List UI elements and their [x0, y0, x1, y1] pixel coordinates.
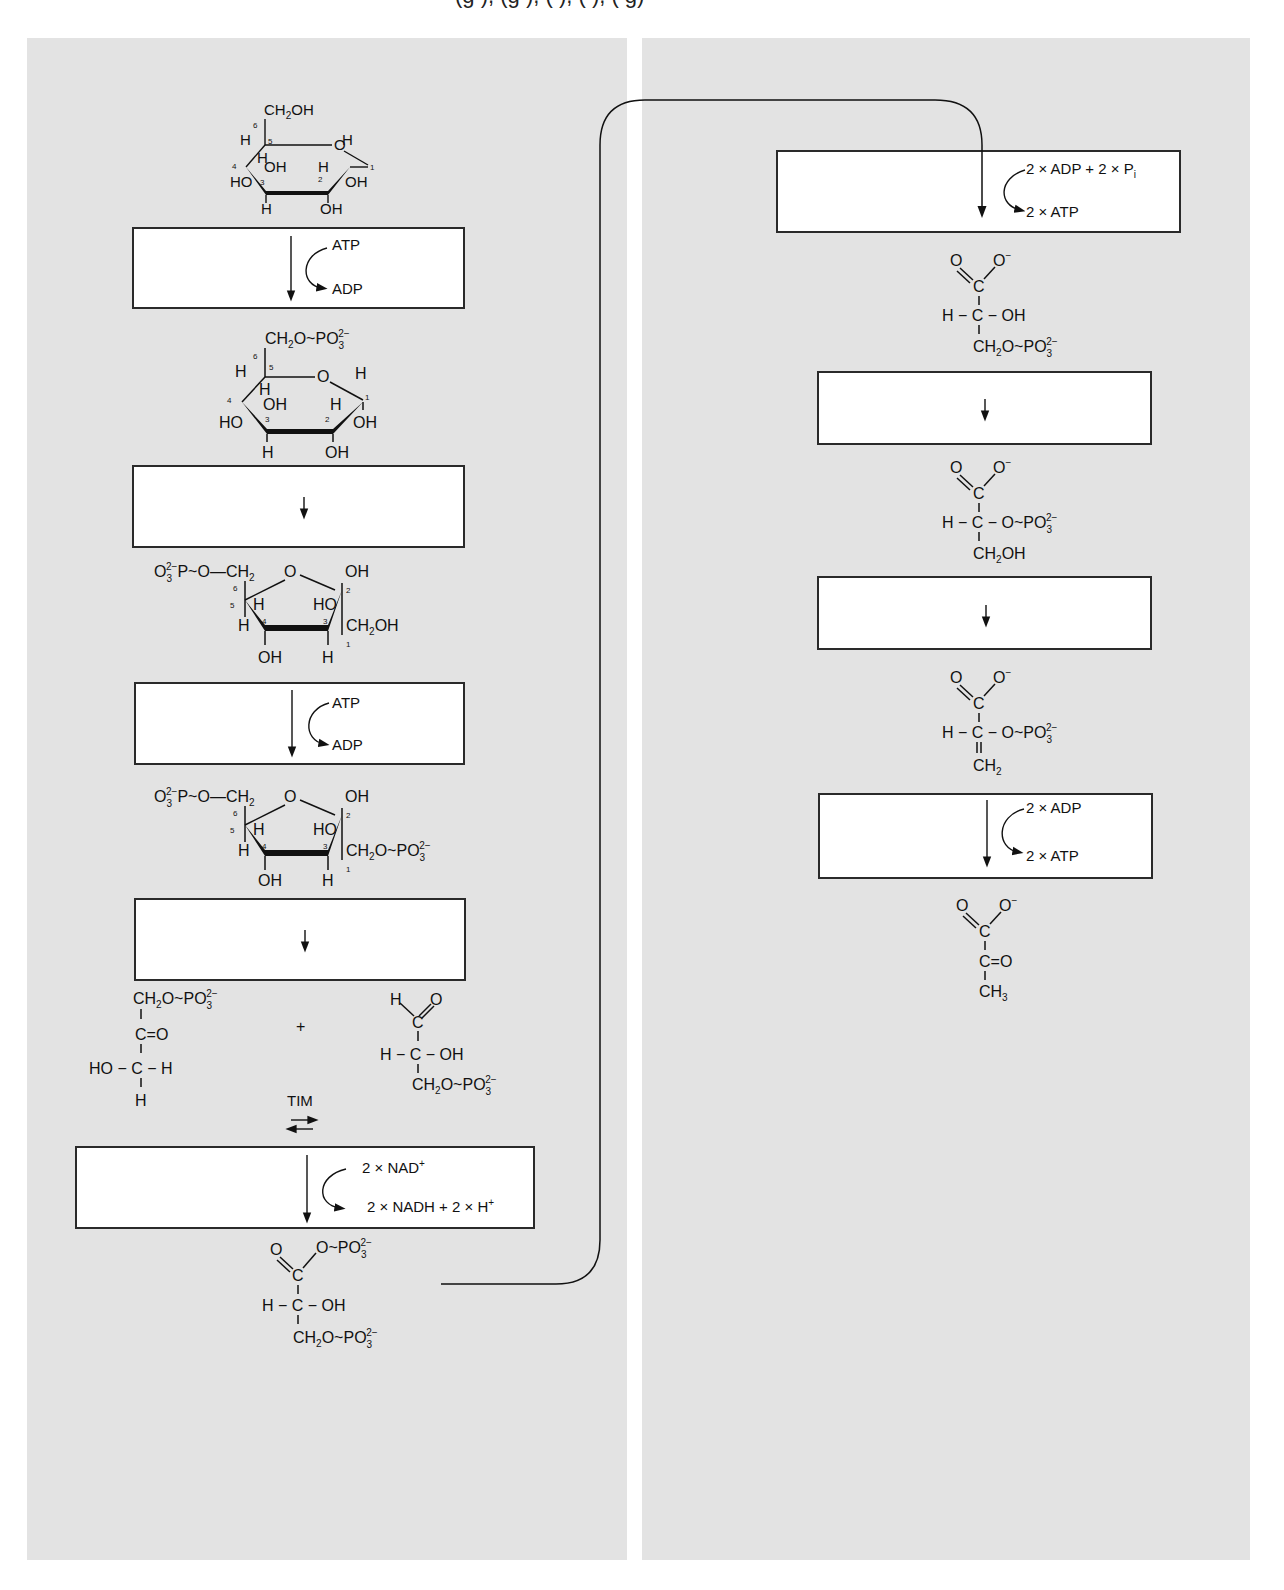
- svg-text:1: 1: [346, 640, 351, 649]
- cofactor-in-adp: 2 × ADP: [1026, 799, 1081, 816]
- svg-text:O32−P~O—CH2: O32−P~O—CH2: [154, 561, 255, 584]
- enzyme-box-step-10: 2 × ADP 2 × ATP: [818, 793, 1153, 879]
- svg-text:2: 2: [346, 586, 351, 595]
- svg-text:H: H: [240, 131, 251, 148]
- svg-text:O32−P~O—CH2: O32−P~O—CH2: [154, 786, 255, 809]
- svg-text:H: H: [262, 444, 274, 461]
- svg-text:1: 1: [370, 163, 375, 172]
- svg-text:CH3: CH3: [979, 983, 1008, 1003]
- svg-text:OH: OH: [263, 396, 287, 413]
- svg-text:3: 3: [323, 842, 328, 851]
- enzyme-box-step-8: [817, 371, 1152, 445]
- svg-text:CH2OH: CH2OH: [973, 545, 1026, 565]
- svg-text:4: 4: [232, 162, 237, 171]
- svg-text:H: H: [318, 158, 329, 175]
- svg-text:OH: OH: [353, 414, 377, 431]
- svg-text:OH: OH: [258, 649, 282, 666]
- svg-text:O−: O−: [999, 895, 1017, 914]
- molecule-glucose: alpha-D-glucose (pyranose) CH2OH 6 5 O H…: [220, 95, 380, 220]
- svg-text:O: O: [950, 669, 962, 686]
- svg-text:C: C: [412, 1014, 424, 1031]
- svg-text:CH2O~PO32−: CH2O~PO32−: [346, 840, 431, 863]
- molecule-phosphoenolpyruvate: phosphoenolpyruvate O C O− H − C − O~PO3…: [940, 665, 1080, 777]
- svg-text:O: O: [950, 252, 962, 269]
- enzyme-box-step-1: ATP ADP: [132, 227, 465, 309]
- molecule-glyceraldehyde-3-phosphate: glyceraldehyde 3-phosphate H O C H − C −…: [378, 988, 528, 1098]
- svg-text:C: C: [973, 485, 985, 502]
- svg-text:H: H: [238, 617, 250, 634]
- molecule-glucose-6-phosphate: glucose 6-phosphate CH2O~PO32− 6 5 O H 1…: [215, 322, 405, 464]
- cofactor-out-adp: ADP: [332, 736, 363, 753]
- enzyme-box-step-9: [817, 576, 1152, 650]
- molecule-2-phosphoglycerate: 2-phosphoglycerate O C O− H − C − O~PO32…: [940, 455, 1080, 567]
- svg-text:OH: OH: [264, 158, 287, 175]
- cofactor-out-atp: 2 × ATP: [1026, 847, 1079, 864]
- svg-text:O: O: [317, 368, 329, 385]
- svg-text:1: 1: [365, 393, 370, 402]
- svg-text:5: 5: [230, 601, 235, 610]
- svg-text:H: H: [253, 596, 265, 613]
- svg-text:OH: OH: [345, 173, 368, 190]
- cofactor-in-adp-pi: 2 × ADP + 2 × Pi: [1026, 160, 1136, 180]
- svg-text:C: C: [973, 278, 985, 295]
- svg-text:5: 5: [269, 363, 274, 372]
- svg-text:6: 6: [233, 809, 238, 818]
- svg-text:6: 6: [253, 121, 258, 130]
- svg-text:HO: HO: [313, 596, 337, 613]
- svg-text:2: 2: [325, 415, 330, 424]
- pep-structure-icon: O C O− H − C − O~PO32− CH2: [940, 665, 1080, 777]
- svg-text:HO: HO: [219, 414, 243, 431]
- svg-text:2: 2: [346, 811, 351, 820]
- molecule-dihydroxyacetone-phosphate: dihydroxyacetone phosphate CH2O~PO32− C=…: [85, 988, 245, 1108]
- svg-text:6: 6: [233, 584, 238, 593]
- svg-text:CH2O~PO32−: CH2O~PO32−: [412, 1074, 497, 1097]
- svg-text:CH2O~PO32−: CH2O~PO32−: [265, 328, 350, 351]
- svg-text:HO: HO: [230, 173, 253, 190]
- svg-text:O: O: [284, 788, 296, 805]
- svg-text:HO − C − H: HO − C − H: [89, 1060, 173, 1077]
- enzyme-box-step-3: ATP ADP: [134, 682, 465, 765]
- svg-text:4: 4: [227, 396, 232, 405]
- svg-text:6: 6: [253, 352, 258, 361]
- svg-text:O: O: [270, 1241, 282, 1258]
- molecule-fructose-6-phosphate: fructose 6-phosphate O32−P~O—CH2 6 5 O O…: [150, 555, 420, 675]
- tim-enzyme-label: TIM: [287, 1092, 313, 1109]
- svg-text:H: H: [322, 872, 334, 889]
- svg-text:H − C − O~PO32−: H − C − O~PO32−: [942, 512, 1058, 535]
- svg-text:3: 3: [323, 617, 328, 626]
- svg-text:H: H: [322, 649, 334, 666]
- cofactor-in-atp: ATP: [332, 694, 360, 711]
- enzyme-box-step-7: 2 × ADP + 2 × Pi 2 × ATP: [776, 150, 1181, 233]
- svg-text:C: C: [292, 1267, 304, 1284]
- svg-text:H − C − OH: H − C − OH: [380, 1046, 464, 1063]
- header-fragment: (g ), (g ), ( ), ( ), ( g): [455, 0, 1284, 14]
- svg-text:H − C − O~PO32−: H − C − O~PO32−: [942, 722, 1058, 745]
- fructose-bisphosphate-structure-icon: O32−P~O—CH2 6 5 O OH 2 H 4 HO 3 H CH2O~P…: [150, 780, 460, 895]
- svg-text:O: O: [284, 563, 296, 580]
- svg-text:O−: O−: [993, 457, 1011, 476]
- svg-text:2: 2: [318, 175, 323, 184]
- svg-text:O: O: [430, 991, 442, 1008]
- svg-text:O: O: [956, 897, 968, 914]
- plus-sign: +: [296, 1018, 305, 1036]
- dhap-structure-icon: CH2O~PO32− C=O HO − C − H H: [85, 988, 245, 1108]
- svg-text:3: 3: [265, 415, 270, 424]
- svg-text:H − C − OH: H − C − OH: [262, 1297, 346, 1314]
- svg-text:H: H: [235, 363, 247, 380]
- svg-text:OH: OH: [258, 872, 282, 889]
- svg-text:H: H: [253, 821, 265, 838]
- svg-text:OH: OH: [345, 788, 369, 805]
- svg-text:C=O: C=O: [979, 953, 1012, 970]
- fructose-6-phosphate-structure-icon: O32−P~O—CH2 6 5 O OH 2 H 4 HO 3 H CH2OH …: [150, 555, 420, 675]
- cofactor-out-nadh: 2 × NADH + 2 × H+: [367, 1197, 494, 1215]
- molecule-pyruvate: pyruvate O C O− C=O CH3: [950, 893, 1050, 1008]
- glucose-6-phosphate-structure-icon: CH2O~PO32− 6 5 O H 1 H H 4 HO OH 3 H 2 O…: [215, 322, 405, 464]
- gap-structure-icon: H O C H − C − OH CH2O~PO32−: [378, 988, 528, 1098]
- enzyme-box-step-6: 2 × NAD+ 2 × NADH + 2 × H+: [75, 1146, 535, 1229]
- 3pg-structure-icon: O C O− H − C − OH CH2O~PO32−: [940, 248, 1080, 363]
- molecule-3-phosphoglycerate: 3-phosphoglycerate O C O− H − C − OH CH2…: [940, 248, 1080, 363]
- svg-text:C=O: C=O: [135, 1026, 168, 1043]
- svg-text:H: H: [135, 1092, 147, 1108]
- svg-text:OH: OH: [325, 444, 349, 461]
- molecule-1-3-bisphosphoglycerate: 1,3-bisphosphoglycerate O C O~PO32− H − …: [260, 1235, 410, 1353]
